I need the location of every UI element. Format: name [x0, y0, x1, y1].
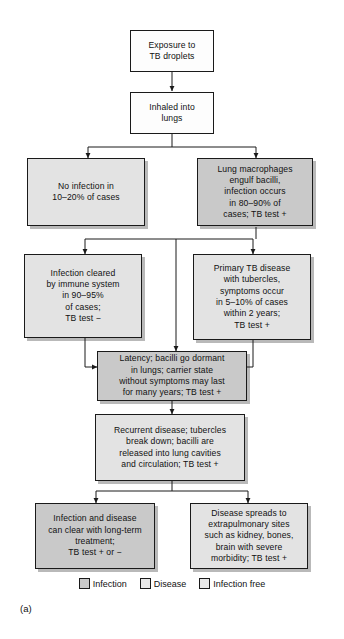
legend-swatch-infection-free: [199, 578, 210, 589]
node-recurrent-disease: Recurrent disease; tubercles break down;…: [95, 414, 245, 481]
node-clear-with-treatment: Infection and disease can clear with lon…: [35, 503, 155, 569]
node-primary-tb-disease: Primary TB disease with tubercles, sympt…: [193, 254, 311, 340]
legend: Infection Disease Infection free: [0, 578, 344, 589]
legend-label-infection: Infection: [93, 579, 127, 589]
legend-item-infection: Infection: [79, 578, 127, 589]
legend-swatch-infection: [79, 578, 90, 589]
node-lung-macrophages: Lung macrophages engulf bacilli, infecti…: [197, 158, 313, 226]
node-inhaled-into-lungs: Inhaled into lungs: [130, 92, 214, 134]
panel-label: (a): [20, 603, 32, 614]
legend-item-disease: Disease: [140, 578, 187, 589]
legend-item-infection-free: Infection free: [199, 578, 265, 589]
legend-label-infection-free: Infection free: [213, 579, 265, 589]
flowchart-canvas: Exposure to TB droplets Inhaled into lun…: [0, 0, 344, 639]
legend-swatch-disease: [140, 578, 151, 589]
legend-label-disease: Disease: [154, 579, 187, 589]
node-extrapulmonary-spread: Disease spreads to extrapulmonary sites …: [190, 503, 308, 569]
node-latency: Latency; bacilli go dormant in lungs; ca…: [97, 351, 247, 401]
node-no-infection: No infection in 10–20% of cases: [27, 158, 145, 226]
node-infection-cleared: Infection cleared by immune system in 90…: [24, 254, 142, 338]
node-exposure: Exposure to TB droplets: [130, 30, 214, 72]
